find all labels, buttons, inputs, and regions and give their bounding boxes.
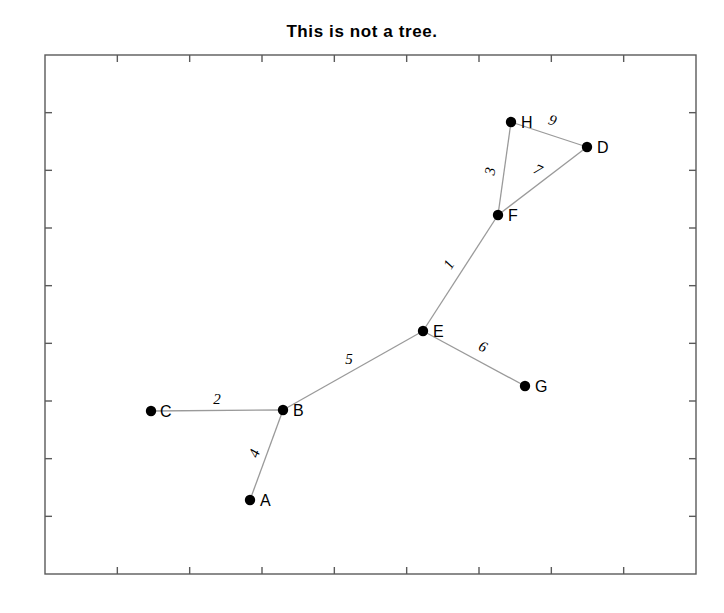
graph-node-labels: ABCDEFGH bbox=[160, 114, 609, 509]
edge-weight-label: 9 bbox=[547, 111, 560, 129]
graph-node-label-c: C bbox=[160, 403, 172, 420]
edge-weight-label: 3 bbox=[481, 166, 498, 177]
graph-node-label-h: H bbox=[521, 114, 533, 131]
graph-edge bbox=[498, 147, 587, 215]
graph-edge bbox=[423, 215, 498, 331]
graph-node-label-f: F bbox=[508, 207, 518, 224]
graph-node-c bbox=[146, 406, 156, 416]
edge-weight-label: 1 bbox=[440, 257, 458, 272]
graph-edges bbox=[151, 122, 587, 500]
graph-nodes bbox=[146, 117, 592, 505]
graph-node-label-e: E bbox=[433, 323, 444, 340]
graph-edge bbox=[283, 331, 423, 410]
axis-ticks bbox=[45, 55, 696, 574]
graph-edge-labels: 12345679 bbox=[213, 111, 559, 459]
graph-node-e bbox=[418, 326, 428, 336]
edge-weight-label: 4 bbox=[246, 447, 264, 460]
edge-weight-label: 7 bbox=[531, 161, 546, 179]
graph-node-label-d: D bbox=[597, 139, 609, 156]
graph-node-label-g: G bbox=[535, 378, 547, 395]
edge-weight-label: 5 bbox=[345, 351, 353, 367]
plot-frame bbox=[45, 55, 696, 574]
graph-node-label-b: B bbox=[293, 402, 304, 419]
graph-node-f bbox=[493, 210, 503, 220]
graph-plot: 12345679 ABCDEFGH bbox=[0, 0, 724, 613]
edge-weight-label: 2 bbox=[213, 391, 221, 407]
graph-node-label-a: A bbox=[260, 492, 271, 509]
edge-weight-label: 6 bbox=[476, 338, 490, 356]
graph-node-h bbox=[506, 117, 516, 127]
graph-node-g bbox=[520, 381, 530, 391]
graph-node-a bbox=[245, 495, 255, 505]
graph-node-b bbox=[278, 405, 288, 415]
graph-edge bbox=[498, 122, 511, 215]
figure-container: This is not a tree. 12345679 ABCDEFGH bbox=[0, 0, 724, 613]
graph-node-d bbox=[582, 142, 592, 152]
